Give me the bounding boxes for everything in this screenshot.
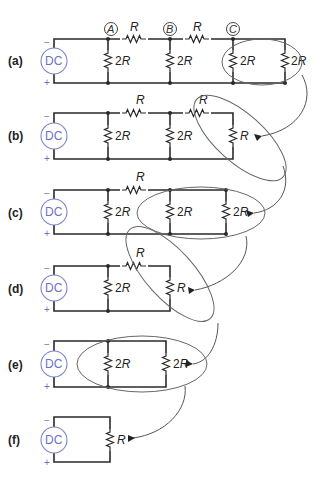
minus-sign: −	[44, 339, 50, 350]
dc-label: DC	[45, 433, 63, 447]
panel-label-a: (a)	[8, 54, 23, 68]
resistor-value: 2R	[115, 54, 131, 68]
wire	[148, 190, 226, 201]
arrowhead-icon	[186, 360, 193, 367]
junction-dot	[231, 81, 235, 85]
panel-label-f: (f)	[8, 433, 20, 447]
resistor-value: R	[136, 93, 145, 107]
wire	[54, 341, 166, 353]
resistor-value: 2R	[233, 205, 249, 219]
reduction-arrow	[133, 386, 185, 438]
plus-sign: +	[44, 153, 50, 164]
wire	[54, 39, 120, 48]
panel-label-e: (e)	[8, 358, 23, 372]
resistor-icon	[167, 125, 174, 147]
resistor-value: 2R	[115, 205, 131, 219]
plus-sign: +	[44, 457, 50, 468]
resistor-value: R	[136, 170, 145, 184]
wire	[54, 190, 120, 200]
plus-sign: +	[44, 304, 50, 315]
resistor-icon	[167, 277, 174, 299]
resistor-icon	[105, 201, 112, 223]
wire	[54, 147, 233, 159]
node-label-b: B	[164, 23, 177, 36]
resistor-icon	[185, 36, 209, 43]
node-label-c: C	[227, 23, 240, 36]
resistor-icon	[122, 263, 146, 270]
resistor-icon	[105, 353, 112, 375]
panel-a: (a) R R 2R 2R 2R 2R A	[8, 20, 307, 136]
wire	[54, 417, 110, 429]
panel-label-c: (c)	[8, 206, 23, 220]
junction-dot	[168, 81, 172, 85]
junction-dot	[106, 37, 110, 41]
wire	[54, 223, 226, 234]
resistor-icon	[122, 187, 146, 194]
minus-sign: −	[44, 415, 50, 426]
node-b-text: B	[166, 23, 173, 35]
wire	[54, 113, 120, 123]
node-a-text: A	[106, 23, 114, 35]
resistor-value: 2R	[177, 205, 193, 219]
resistor-icon	[167, 50, 174, 72]
resistor-value: 2R	[177, 54, 193, 68]
resistor-icon	[223, 201, 230, 223]
dc-label: DC	[45, 129, 63, 143]
resistor-icon	[122, 36, 146, 43]
wire	[148, 266, 170, 277]
junction-dot	[106, 232, 110, 236]
junction-dot	[168, 37, 172, 41]
junction-dot	[106, 111, 110, 115]
resistor-value: 2R	[115, 129, 131, 143]
plus-sign: +	[44, 77, 50, 88]
resistor-icon	[230, 50, 237, 72]
junction-dot	[224, 232, 228, 236]
minus-sign: −	[44, 188, 50, 199]
resistor-icon	[230, 125, 237, 147]
minus-sign: −	[44, 37, 50, 48]
resistor-icon	[163, 353, 170, 375]
plus-sign: +	[44, 228, 50, 239]
resistor-value: 2R	[240, 54, 256, 68]
node-c-text: C	[229, 23, 237, 35]
resistor-value: R	[240, 129, 249, 143]
junction-dot	[106, 188, 110, 192]
panel-b: (b) R R 2R 2R R DC − +	[8, 81, 299, 213]
junction-dot	[168, 157, 172, 161]
dc-label: DC	[45, 281, 63, 295]
junction-dot	[168, 111, 172, 115]
plus-sign: +	[44, 381, 50, 392]
resistor-icon	[167, 201, 174, 223]
panel-label-d: (d)	[8, 282, 23, 296]
wire	[211, 113, 233, 125]
resistor-value: R	[117, 433, 126, 447]
reduction-arrow	[254, 166, 286, 213]
resistor-icon	[105, 277, 112, 299]
junction-dot	[106, 309, 110, 313]
resistor-value: R	[193, 20, 202, 34]
resistor-icon	[105, 125, 112, 147]
junction-dot	[106, 157, 110, 161]
dc-label: DC	[45, 205, 63, 219]
panel-label-b: (b)	[8, 129, 23, 143]
junction-dot	[231, 37, 235, 41]
resistor-value: R	[136, 246, 145, 260]
arrowhead-icon	[188, 287, 195, 294]
resistor-icon	[105, 50, 112, 72]
junction-dot	[106, 81, 110, 85]
dc-label: DC	[45, 54, 63, 68]
resistor-value: 2R	[291, 54, 307, 68]
arrowhead-icon	[128, 435, 135, 442]
resistor-icon	[282, 50, 289, 72]
minus-sign: −	[44, 263, 50, 274]
resistor-value: R	[130, 20, 139, 34]
node-label-a: A	[105, 23, 118, 36]
wire	[54, 375, 166, 387]
wire	[54, 266, 120, 276]
resistor-value: 2R	[177, 129, 193, 143]
dc-label: DC	[45, 357, 63, 371]
minus-sign: −	[44, 111, 50, 122]
wire	[54, 299, 170, 311]
panel-e: (e) 2R 2R DC − +	[8, 336, 207, 438]
arrowhead-icon	[254, 134, 262, 141]
